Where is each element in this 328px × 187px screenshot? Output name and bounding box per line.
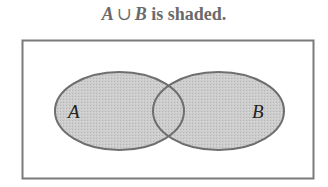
venn-diagram: A B	[0, 0, 328, 187]
set-a-label: A	[66, 101, 80, 122]
set-b-label: B	[252, 101, 264, 122]
